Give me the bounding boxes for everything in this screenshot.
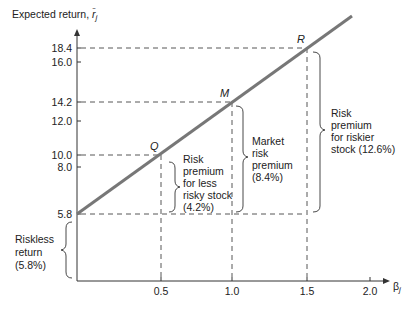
svg-text:1.5: 1.5 xyxy=(300,285,315,297)
svg-text:1.0: 1.0 xyxy=(225,285,240,297)
svg-text:12.0: 12.0 xyxy=(52,115,73,127)
svg-text:16.0: 16.0 xyxy=(52,56,73,68)
riskless-brace xyxy=(61,222,72,278)
market-brace xyxy=(236,106,248,212)
x-ticks: 0.5 1.0 1.5 2.0 xyxy=(154,277,378,297)
svg-text:5.8: 5.8 xyxy=(57,208,72,220)
svg-text:14.2: 14.2 xyxy=(52,96,73,108)
less-risky-annotation: Risk premium for less risky stock (4.2%) xyxy=(183,153,235,213)
riskless-annotation: Riskless return (5.8%) xyxy=(15,233,57,271)
x-axis-label: βj xyxy=(393,280,401,294)
chart-canvas: Expected return, r̄j βj 18.4 16.0 14.2 1… xyxy=(0,0,414,312)
svg-text:8.0: 8.0 xyxy=(57,161,72,173)
svg-text:0.5: 0.5 xyxy=(154,285,169,297)
svg-text:2.0: 2.0 xyxy=(363,285,378,297)
riskier-brace xyxy=(313,52,325,212)
svg-text:18.4: 18.4 xyxy=(52,42,73,54)
point-label-q: Q xyxy=(150,140,159,152)
market-annotation: Market risk premium (8.4%) xyxy=(252,135,296,183)
point-label-r: R xyxy=(297,33,305,45)
less-risky-brace xyxy=(169,162,180,212)
point-label-m: M xyxy=(220,87,230,99)
sml-chart: Expected return, r̄j βj 18.4 16.0 14.2 1… xyxy=(0,0,414,312)
x-axis-arrow-icon xyxy=(383,278,390,284)
y-axis-arrow-icon xyxy=(74,29,80,36)
y-axis-label: Expected return, r̄j xyxy=(12,8,97,22)
svg-text:10.0: 10.0 xyxy=(52,149,73,161)
riskier-annotation: Risk premium for riskier stock (12.6%) xyxy=(331,107,395,155)
